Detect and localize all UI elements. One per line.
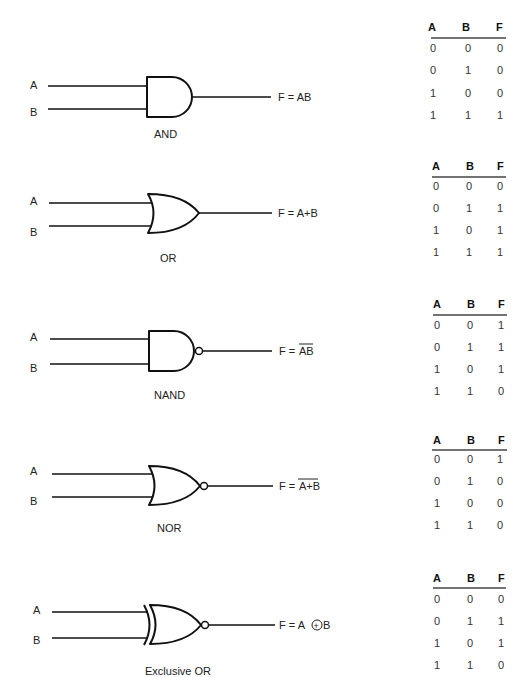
output-expression: F = A+B — [279, 479, 320, 492]
table-row: 000 — [433, 180, 503, 192]
svg-text:1: 1 — [434, 519, 440, 531]
svg-text:0: 0 — [466, 180, 472, 192]
input-label-b: B — [33, 634, 40, 646]
table-row: 011 — [433, 202, 503, 214]
svg-text:1: 1 — [497, 224, 503, 236]
svg-text:0: 0 — [467, 497, 473, 509]
table-row: 011 — [434, 341, 504, 353]
gate-block-xor: A B F = A + B Exclusive OR — [33, 604, 330, 677]
svg-text:0: 0 — [497, 519, 503, 531]
svg-text:1: 1 — [465, 109, 471, 121]
header-a: A — [433, 298, 441, 310]
logic-gates-diagram: A B F = AB AND A B F 000 010 100 111 A B — [0, 0, 529, 677]
svg-text:0: 0 — [467, 453, 473, 465]
header-b: B — [467, 298, 475, 310]
table-row: 110 — [434, 659, 504, 671]
svg-text:0: 0 — [465, 87, 471, 99]
gate-block-or: A B F = A+B OR — [30, 194, 318, 264]
input-label-a: A — [33, 604, 41, 616]
svg-text:1: 1 — [498, 363, 504, 375]
svg-text:1: 1 — [497, 109, 503, 121]
svg-text:1: 1 — [498, 341, 504, 353]
inversion-bubble-icon — [202, 622, 209, 629]
input-label-a: A — [30, 195, 38, 207]
svg-text:F =: F = — [279, 345, 295, 357]
and-gate-icon — [147, 77, 192, 117]
header-f: F — [498, 298, 505, 310]
nor-gate-icon — [149, 466, 200, 505]
svg-text:1: 1 — [430, 109, 436, 121]
table-row: 101 — [434, 363, 504, 375]
svg-text:0: 0 — [433, 202, 439, 214]
nand-gate-icon — [149, 331, 194, 371]
svg-text:1: 1 — [467, 341, 473, 353]
svg-text:0: 0 — [466, 224, 472, 236]
svg-text:0: 0 — [498, 659, 504, 671]
truth-table-and: A B F 000 010 100 111 — [428, 21, 506, 121]
svg-text:1: 1 — [467, 475, 473, 487]
or-gate-icon — [148, 194, 199, 233]
svg-text:1: 1 — [466, 246, 472, 258]
header-a: A — [433, 572, 441, 584]
svg-text:0: 0 — [434, 593, 440, 605]
svg-text:0: 0 — [430, 42, 436, 54]
header-b: B — [462, 21, 470, 33]
svg-text:1: 1 — [434, 659, 440, 671]
svg-text:1: 1 — [498, 637, 504, 649]
table-row: 101 — [434, 637, 504, 649]
gate-name-label: AND — [154, 128, 177, 140]
gate-block-and: A B F = AB AND — [30, 77, 311, 140]
input-label-a: A — [30, 331, 38, 343]
svg-text:1: 1 — [433, 224, 439, 236]
svg-text:0: 0 — [467, 593, 473, 605]
svg-text:1: 1 — [434, 637, 440, 649]
svg-text:0: 0 — [498, 385, 504, 397]
svg-text:0: 0 — [467, 319, 473, 331]
table-row: 000 — [430, 42, 503, 54]
svg-text:0: 0 — [434, 341, 440, 353]
svg-text:0: 0 — [434, 453, 440, 465]
svg-text:1: 1 — [467, 659, 473, 671]
svg-text:0: 0 — [497, 64, 503, 76]
header-f: F — [498, 434, 505, 446]
table-row: 000 — [434, 593, 504, 605]
input-label-a: A — [30, 79, 38, 91]
svg-text:F =: F = — [279, 480, 295, 492]
input-label-b: B — [30, 362, 37, 374]
table-row: 101 — [433, 224, 503, 236]
table-row: 110 — [434, 385, 504, 397]
header-b: B — [466, 160, 474, 172]
table-row: 010 — [430, 64, 503, 76]
svg-text:1: 1 — [497, 246, 503, 258]
svg-text:0: 0 — [497, 180, 503, 192]
svg-text:1: 1 — [497, 453, 503, 465]
header-f: F — [496, 21, 503, 33]
svg-text:1: 1 — [433, 246, 439, 258]
table-row: 001 — [434, 319, 504, 331]
svg-text:1: 1 — [467, 385, 473, 397]
svg-text:0: 0 — [433, 180, 439, 192]
svg-text:0: 0 — [434, 475, 440, 487]
input-label-b: B — [30, 226, 37, 238]
svg-text:B: B — [323, 619, 330, 631]
svg-text:+: + — [314, 621, 319, 631]
table-row: 111 — [430, 109, 503, 121]
svg-text:F = A: F = A — [279, 619, 306, 631]
truth-table-xor: A B F 000 011 101 110 — [433, 572, 506, 671]
table-row: 011 — [434, 615, 504, 627]
svg-text:0: 0 — [498, 593, 504, 605]
output-expression: F = AB — [279, 344, 314, 357]
table-row: 001 — [434, 453, 503, 465]
xor-gate-icon — [150, 605, 201, 644]
svg-text:1: 1 — [434, 363, 440, 375]
svg-text:0: 0 — [434, 615, 440, 627]
gate-name-label: OR — [160, 252, 177, 264]
header-b: B — [467, 572, 475, 584]
svg-text:1: 1 — [497, 202, 503, 214]
output-expression: F = AB — [278, 91, 311, 103]
inversion-bubble-icon — [196, 348, 203, 355]
svg-text:0: 0 — [467, 363, 473, 375]
svg-text:0: 0 — [467, 637, 473, 649]
input-label-a: A — [30, 465, 38, 477]
header-a: A — [428, 21, 436, 33]
